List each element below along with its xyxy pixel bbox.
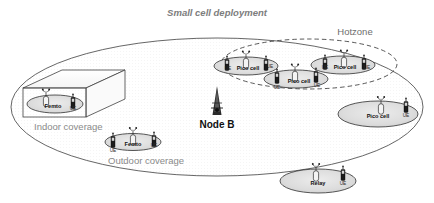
pico-hotzone-right-ue-right-label: UE: [364, 65, 371, 70]
femto-outdoor-label: Femto: [125, 141, 142, 147]
pico-right-label: Pico cell: [367, 113, 390, 119]
ue-icon: [341, 166, 345, 181]
pico-hotzone-left-ue-left-label: UE: [225, 66, 232, 71]
femto-outdoor-ue-right-label: UE: [151, 143, 158, 148]
relay-label: Relay: [311, 180, 327, 186]
pico-hotzone-middle-label: Pico cell: [288, 78, 311, 84]
femto-indoor-ue-label: UE: [70, 106, 77, 111]
femto-outdoor-ue-left-label: UE: [110, 148, 117, 153]
hotzone-label: Hotzone: [337, 26, 372, 37]
node-b-label: Node B: [200, 119, 235, 130]
outdoor-coverage-label: Outdoor coverage: [108, 155, 184, 166]
pico-hotzone-left-label: Pico cell: [237, 65, 260, 71]
indoor-coverage-label: Indoor coverage: [34, 121, 103, 132]
pico-hotzone-right-label: Pico cell: [334, 64, 357, 70]
figure-title: Small cell deployment: [167, 7, 268, 18]
femto-indoor-label: Femto: [45, 103, 62, 109]
diagram-canvas: Small cell deployment Hotzone Femto UE I…: [0, 0, 434, 203]
relay-ue-label: UE: [340, 181, 347, 186]
small-cell-deployment-figure: Small cell deployment Hotzone Femto UE I…: [0, 0, 434, 203]
pico-hotzone-middle-ue-left-label: UE: [274, 85, 281, 90]
pico-right-ue-label: UE: [403, 113, 410, 118]
pico-hotzone-middle-ue-right-label: UE: [314, 83, 321, 88]
pico-hotzone-left-ue-right-label: UE: [267, 64, 274, 69]
pico-hotzone-right-ue-left-label: UE: [322, 65, 329, 70]
